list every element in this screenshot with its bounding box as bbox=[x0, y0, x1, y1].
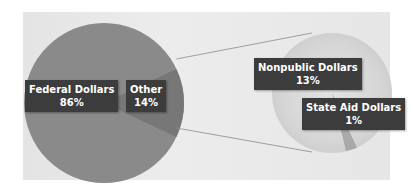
label-value: 14% bbox=[130, 96, 162, 109]
label-name: Nonpublic Dollars bbox=[258, 61, 358, 74]
data-label-federal: Federal Dollars 86% bbox=[25, 80, 118, 112]
label-value: 86% bbox=[29, 96, 114, 109]
label-value: 1% bbox=[306, 114, 401, 127]
label-name: State Aid Dollars bbox=[306, 101, 401, 114]
label-name: Other bbox=[130, 83, 162, 96]
label-value: 13% bbox=[258, 74, 358, 87]
label-name: Federal Dollars bbox=[29, 83, 114, 96]
data-label-other: Other 14% bbox=[126, 80, 166, 112]
data-label-nonpublic: Nonpublic Dollars 13% bbox=[254, 58, 362, 90]
secondary-pie bbox=[272, 33, 392, 153]
data-label-state-aid: State Aid Dollars 1% bbox=[302, 98, 405, 130]
